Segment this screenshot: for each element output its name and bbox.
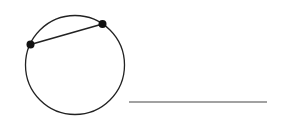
diagram-canvas [0, 0, 286, 123]
point-1 [27, 41, 35, 49]
circle [26, 16, 125, 115]
point-2 [99, 20, 107, 28]
chord-line [31, 24, 103, 45]
